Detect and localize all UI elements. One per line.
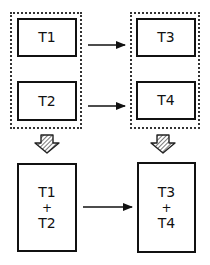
hatched-down-arrow-right-icon: [151, 135, 175, 153]
hatched-down-arrow-left-icon: [35, 135, 59, 153]
arrows-layer: [0, 0, 210, 265]
